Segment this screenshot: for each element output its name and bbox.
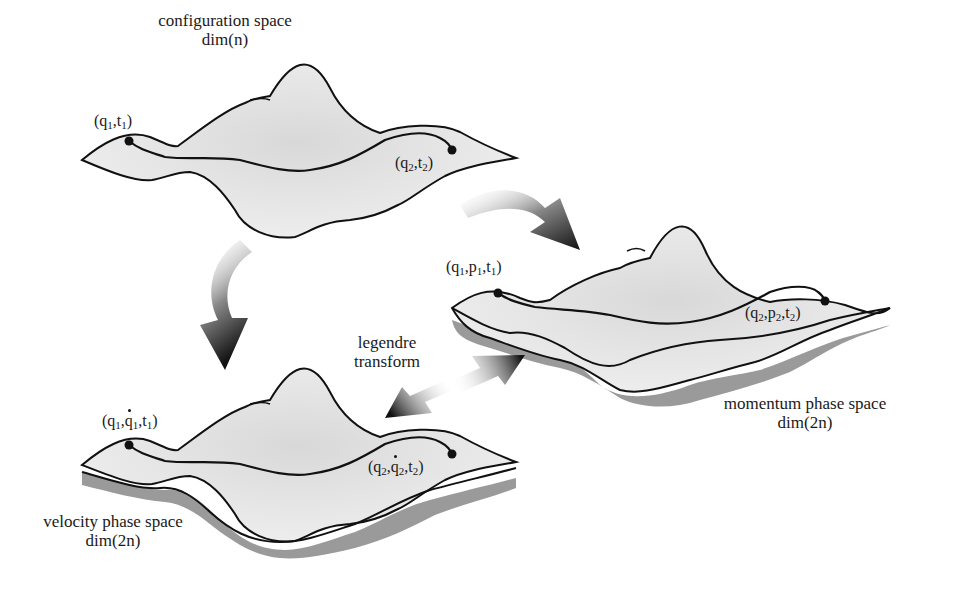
configuration-end-point-label: (q2,t2) bbox=[395, 154, 433, 176]
coord-q-index: 2 bbox=[381, 465, 387, 477]
coord-t-index: 2 bbox=[413, 465, 419, 477]
velocity-space-name: velocity phase space bbox=[28, 512, 198, 531]
momentum-start-point-label: (q1,p1,t1) bbox=[446, 258, 502, 280]
coord-t-index: 2 bbox=[422, 161, 428, 173]
momentum-end-point-label: (q2,p2,t2) bbox=[745, 304, 801, 326]
coord-qdot-index: 2 bbox=[399, 465, 405, 477]
momentum-space-dim: dim(2n) bbox=[700, 413, 910, 432]
coord-p: p bbox=[469, 258, 477, 275]
diagram-canvas bbox=[0, 0, 963, 590]
coord-q-index: 1 bbox=[459, 265, 465, 277]
arrow-config-to-velocity bbox=[200, 240, 252, 370]
momentum-space-title: momentum phase space dim(2n) bbox=[700, 394, 910, 432]
arrow-config-to-momentum bbox=[460, 190, 580, 250]
configuration-start-point-label: (q1,t1) bbox=[94, 112, 132, 134]
coord-t-index: 1 bbox=[147, 419, 153, 431]
coord-q-index: 2 bbox=[408, 161, 414, 173]
velocity-space-dim: dim(2n) bbox=[28, 531, 198, 550]
velocity-start-point-label: (q1,q1,t1) bbox=[102, 412, 158, 434]
coord-t-index: 1 bbox=[491, 265, 497, 277]
configuration-space-surface bbox=[82, 64, 516, 237]
configuration-space-title: configuration space dim(n) bbox=[140, 11, 310, 49]
coord-q-index: 1 bbox=[107, 119, 113, 131]
coord-t-index: 1 bbox=[121, 119, 127, 131]
arrow-legendre-to-velocity bbox=[385, 380, 458, 418]
coord-p-index: 1 bbox=[477, 265, 483, 277]
legendre-transform-label: legendre transform bbox=[342, 333, 432, 371]
coord-qdot-index: 1 bbox=[133, 419, 139, 431]
coord-qdot: q bbox=[391, 458, 399, 476]
configuration-space-name: configuration space bbox=[140, 11, 310, 30]
velocity-end-point-label: (q2,q2,t2) bbox=[368, 458, 424, 480]
momentum-space-surface bbox=[452, 226, 890, 406]
coord-p-index: 2 bbox=[776, 311, 782, 323]
momentum-space-name: momentum phase space bbox=[700, 394, 910, 413]
coord-qdot: q bbox=[125, 412, 133, 430]
legendre-label-line2: transform bbox=[342, 352, 432, 371]
configuration-space-dim: dim(n) bbox=[140, 30, 310, 49]
arrow-legendre-to-momentum bbox=[448, 355, 525, 392]
coord-p: p bbox=[768, 304, 776, 321]
legendre-label-line1: legendre bbox=[342, 333, 432, 352]
coord-q-index: 1 bbox=[115, 419, 121, 431]
coord-t-index: 2 bbox=[790, 311, 796, 323]
coord-q-index: 2 bbox=[758, 311, 764, 323]
velocity-space-title: velocity phase space dim(2n) bbox=[28, 512, 198, 550]
